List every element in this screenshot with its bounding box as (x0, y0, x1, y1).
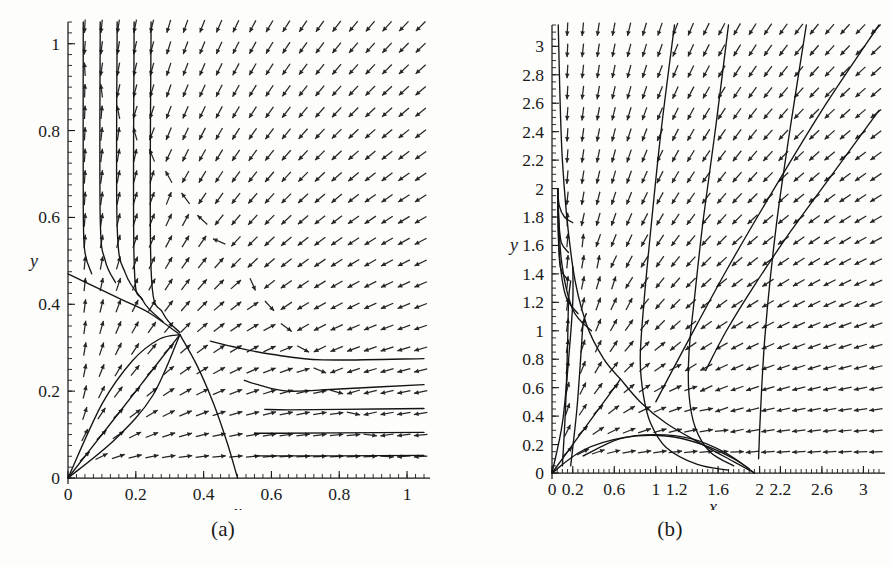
y-axis-label: y (508, 235, 518, 255)
phase-portrait-b: 00.20.611.21.622.22.6300.20.40.60.811.21… (447, 0, 893, 510)
y-tick-label: 0.2 (38, 381, 60, 401)
trajectory-curve (254, 432, 424, 433)
y-tick-label: 1.8 (522, 207, 544, 227)
y-tick-label: 3 (535, 36, 544, 56)
trajectory-curve (133, 22, 162, 322)
panel-a: 00.20.40.60.8100.20.40.60.81xy (a) (0, 0, 446, 566)
figure-phase-portraits: 00.20.40.60.8100.20.40.60.81xy (a) 00.20… (0, 0, 893, 566)
y-tick-label: 1.2 (522, 292, 544, 312)
y-tick-label: 2.4 (522, 122, 544, 142)
trajectory-curve (688, 25, 733, 466)
y-tick-label: 2.6 (522, 93, 544, 113)
x-tick-label: 2.2 (769, 479, 791, 499)
y-tick-label: 0.8 (522, 349, 544, 369)
y-tick-label: 0.2 (522, 435, 544, 455)
trajectory-curve (265, 409, 424, 410)
y-tick-label: 0.8 (38, 121, 60, 141)
y-tick-label: 0 (51, 468, 60, 488)
x-tick-label: 0 (64, 484, 73, 504)
y-tick-label: 2 (535, 179, 544, 199)
x-tick-label: 0.4 (193, 484, 215, 504)
x-tick-label: 0.8 (328, 484, 350, 504)
trajectory-curve (640, 25, 728, 470)
x-tick-label: 3 (859, 479, 868, 499)
trajectory-curve (583, 435, 749, 469)
panel-b-caption: (b) (447, 517, 893, 542)
y-tick-label: 0.4 (38, 294, 60, 314)
x-tick-label: 1 (403, 484, 412, 504)
y-tick-label: 1.4 (522, 264, 544, 284)
x-tick-label: 0.6 (603, 479, 625, 499)
trajectory-curve (706, 110, 879, 370)
x-tick-label: 2 (755, 479, 764, 499)
trajectory-curve (552, 435, 754, 473)
x-tick-label: 1.6 (707, 479, 729, 499)
x-axis-label: x (233, 502, 242, 510)
x-tick-label: 2.6 (811, 479, 833, 499)
x-axis-label: x (708, 497, 717, 510)
x-tick-label: 0.2 (562, 479, 584, 499)
y-tick-label: 1.6 (522, 235, 544, 255)
y-tick-label: 0 (535, 463, 544, 483)
phase-portrait-a: 00.20.40.60.8100.20.40.60.81xy (0, 0, 446, 510)
x-tick-label: 1 (651, 479, 660, 499)
y-tick-label: 2.2 (522, 150, 544, 170)
y-tick-label: 1 (51, 34, 60, 54)
y-tick-label: 0.4 (522, 406, 544, 426)
panel-a-caption: (a) (0, 517, 446, 542)
y-tick-label: 1 (535, 321, 544, 341)
x-tick-label: 0 (548, 479, 557, 499)
panel-b: 00.20.611.21.622.22.6300.20.40.60.811.21… (447, 0, 893, 566)
x-tick-label: 0.6 (260, 484, 282, 504)
trajectory-curve (552, 267, 573, 473)
x-tick-label: 0.2 (125, 484, 147, 504)
y-axis-label: y (28, 251, 38, 271)
trajectory-curve (150, 22, 180, 333)
x-tick-label: 1.2 (666, 479, 688, 499)
y-tick-label: 0.6 (38, 207, 60, 227)
y-tick-label: 2.8 (522, 65, 544, 85)
trajectory-curve (571, 314, 587, 466)
trajectory-curve (68, 335, 180, 478)
y-tick-label: 0.6 (522, 378, 544, 398)
trajectory-curve (83, 22, 92, 274)
